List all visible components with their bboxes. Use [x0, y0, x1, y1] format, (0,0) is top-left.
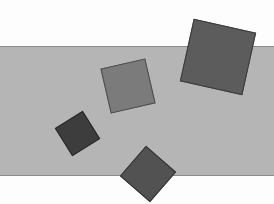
diagram-canvas [0, 0, 274, 204]
large-square [180, 19, 256, 95]
